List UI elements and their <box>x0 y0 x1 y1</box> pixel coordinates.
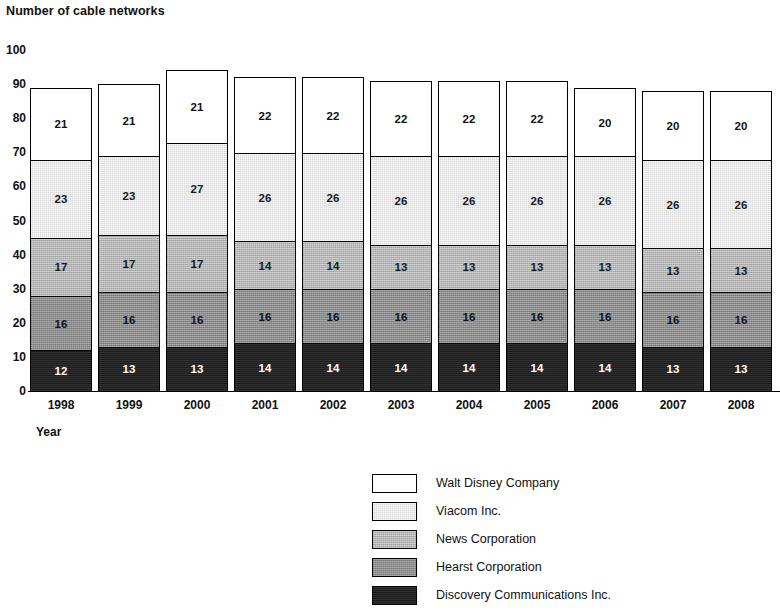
bar-stack: 2226141614 <box>302 77 364 391</box>
bar-segment: 13 <box>575 245 635 289</box>
bar-segment: 13 <box>99 347 159 391</box>
bar-segment: 26 <box>507 156 567 244</box>
x-axis-tick-label: 1998 <box>30 398 92 412</box>
plot-area: 2123171612212317161321271716132226141614… <box>30 50 780 391</box>
bar-segment: 21 <box>31 89 91 160</box>
bar-stack: 2127171613 <box>166 70 228 391</box>
bar-segment: 16 <box>167 292 227 346</box>
bar-segment: 13 <box>507 245 567 289</box>
bar-segment: 13 <box>643 248 703 292</box>
x-axis-tick-label: 2004 <box>438 398 500 412</box>
bar-segment: 13 <box>643 347 703 391</box>
legend-swatch-icon <box>372 558 417 577</box>
bar-column: 2123171613 <box>98 84 160 391</box>
bar-segment: 16 <box>643 292 703 346</box>
bar-segment: 16 <box>235 289 295 343</box>
bar-column: 2226131614 <box>506 81 568 391</box>
bar-segment: 16 <box>507 289 567 343</box>
bar-column: 2226131614 <box>370 81 432 391</box>
bar-column: 2226141614 <box>302 77 364 391</box>
bar-segment: 21 <box>99 85 159 156</box>
bar-column: 2026131613 <box>710 91 772 391</box>
x-axis-tick-label: 2001 <box>234 398 296 412</box>
bar-segment: 13 <box>167 347 227 391</box>
bar-segment: 14 <box>303 343 363 391</box>
y-axis-tick-label: 40 <box>13 248 26 262</box>
bar-segment: 26 <box>575 156 635 244</box>
bar-segment: 22 <box>439 82 499 157</box>
stacked-bar-chart: Number of cable networks 010203040506070… <box>0 0 780 614</box>
x-axis-tick-label: 2003 <box>370 398 432 412</box>
bar-segment: 20 <box>643 92 703 160</box>
legend-swatch-icon <box>372 586 417 605</box>
legend-item-label: Discovery Communications Inc. <box>436 588 611 602</box>
x-axis-tick-label: 2005 <box>506 398 568 412</box>
bar-segment: 27 <box>167 143 227 235</box>
legend-swatch-icon <box>372 474 417 493</box>
bar-segment: 22 <box>507 82 567 157</box>
bar-segment: 26 <box>235 153 295 241</box>
legend-item-label: News Corporation <box>436 532 536 546</box>
bar-segment: 17 <box>31 238 91 296</box>
x-axis-title: Year <box>36 425 61 439</box>
bar-segment: 26 <box>439 156 499 244</box>
bar-stack: 2226131614 <box>370 81 432 391</box>
bar-segment: 13 <box>439 245 499 289</box>
bar-segment: 14 <box>371 343 431 391</box>
legend-item-label: Viacom Inc. <box>436 504 501 518</box>
legend-swatch-icon <box>372 530 417 549</box>
chart-legend: Walt Disney CompanyViacom Inc.News Corpo… <box>372 469 611 609</box>
bar-segment: 22 <box>371 82 431 157</box>
bar-segment: 26 <box>643 160 703 248</box>
bar-segment: 17 <box>167 235 227 293</box>
y-axis-tick-label: 90 <box>13 77 26 91</box>
y-axis-tick-label: 60 <box>13 179 26 193</box>
y-axis-title: Number of cable networks <box>6 4 165 18</box>
bar-segment: 16 <box>303 289 363 343</box>
bar-segment: 14 <box>235 241 295 289</box>
bar-segment: 16 <box>711 292 771 346</box>
bar-segment: 16 <box>575 289 635 343</box>
bar-column: 2026131613 <box>642 91 704 391</box>
x-axis-tick-label: 2000 <box>166 398 228 412</box>
bar-segment: 20 <box>711 92 771 160</box>
bar-segment: 14 <box>303 241 363 289</box>
legend-item[interactable]: Viacom Inc. <box>372 497 611 525</box>
bar-column: 2026131614 <box>574 88 636 391</box>
y-axis-tick-label: 70 <box>13 145 26 159</box>
bar-column: 2226131614 <box>438 81 500 391</box>
bar-segment: 22 <box>303 78 363 153</box>
bar-segment: 14 <box>235 343 295 391</box>
legend-item[interactable]: Discovery Communications Inc. <box>372 581 611 609</box>
bar-stack: 2226131614 <box>506 81 568 391</box>
bar-segment: 12 <box>31 350 91 391</box>
legend-item-label: Hearst Corporation <box>436 560 542 574</box>
bar-segment: 13 <box>711 248 771 292</box>
legend-item[interactable]: News Corporation <box>372 525 611 553</box>
y-axis-tick-label: 50 <box>13 214 26 228</box>
bar-segment: 20 <box>575 89 635 157</box>
bar-segment: 16 <box>99 292 159 346</box>
y-axis: 0102030405060708090100 <box>0 50 30 391</box>
bar-segment: 26 <box>711 160 771 248</box>
bar-segment: 22 <box>235 78 295 153</box>
y-axis-tick-label: 10 <box>13 350 26 364</box>
bar-column: 2123171612 <box>30 88 92 391</box>
bar-segment: 13 <box>711 347 771 391</box>
bar-stack: 2123171613 <box>98 84 160 391</box>
bar-segment: 17 <box>99 235 159 293</box>
x-axis-tick-label: 2007 <box>642 398 704 412</box>
legend-item-label: Walt Disney Company <box>436 476 559 490</box>
bar-stack: 2026131613 <box>710 91 772 391</box>
bar-segment: 16 <box>31 296 91 350</box>
bar-segment: 26 <box>371 156 431 244</box>
bar-segment: 23 <box>99 156 159 234</box>
x-axis-tick-label: 2008 <box>710 398 772 412</box>
legend-item[interactable]: Walt Disney Company <box>372 469 611 497</box>
bar-segment: 23 <box>31 160 91 238</box>
bar-segment: 21 <box>167 71 227 142</box>
legend-item[interactable]: Hearst Corporation <box>372 553 611 581</box>
bar-stack: 2026131614 <box>574 88 636 391</box>
bar-column: 2226141614 <box>234 77 296 391</box>
bar-segment: 14 <box>575 343 635 391</box>
